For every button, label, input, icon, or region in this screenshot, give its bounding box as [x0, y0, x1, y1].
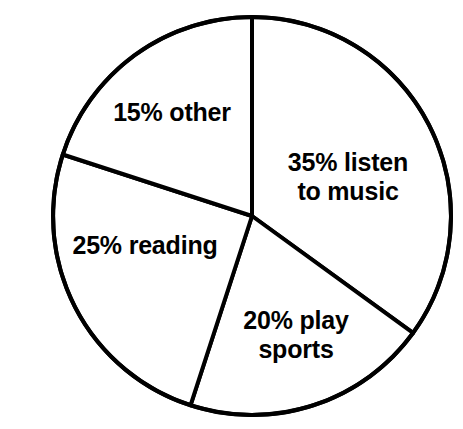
slice-label-listen-to-music: 35% listen to music	[268, 148, 428, 205]
slice-label-other: 15% other	[92, 98, 252, 127]
pie-chart: 35% listen to music 20% play sports 25% …	[0, 0, 463, 429]
pie-chart-graphic	[0, 0, 463, 429]
slice-label-reading: 25% reading	[52, 231, 238, 260]
slice-label-play-sports: 20% play sports	[222, 306, 370, 363]
